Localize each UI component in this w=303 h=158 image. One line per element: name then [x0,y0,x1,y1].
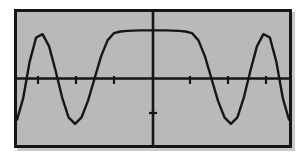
calculator-screen[interactable] [14,9,292,148]
frame-shadow-bottom [17,148,295,151]
plot-area[interactable] [17,12,289,145]
screenshot-root [0,0,303,158]
graph-plot [17,12,289,145]
frame-shadow-right [292,12,295,151]
